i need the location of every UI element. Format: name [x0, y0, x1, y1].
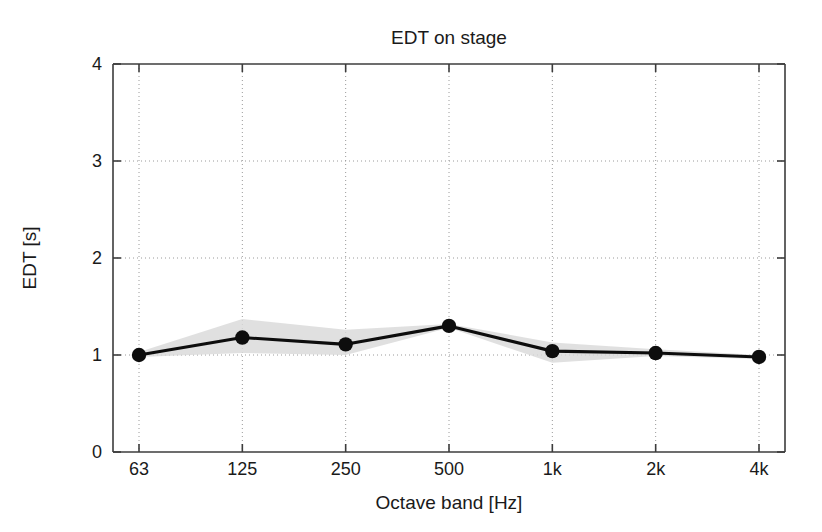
- y-axis-label: EDT [s]: [19, 227, 40, 290]
- data-point-marker: [442, 319, 456, 333]
- y-tick-label: 1: [92, 345, 102, 365]
- data-point-marker: [132, 348, 146, 362]
- y-tick-label: 2: [92, 248, 102, 268]
- x-tick-label: 63: [129, 459, 149, 479]
- x-tick-label: 2k: [646, 459, 666, 479]
- data-point-marker: [545, 344, 559, 358]
- data-point-marker: [648, 346, 662, 360]
- x-tick-label: 125: [227, 459, 257, 479]
- data-point-marker: [752, 350, 766, 364]
- data-point-marker: [338, 337, 352, 351]
- y-tick-label: 0: [92, 442, 102, 462]
- x-tick-label: 4k: [749, 459, 769, 479]
- data-point-marker: [235, 330, 249, 344]
- x-tick-label: 250: [331, 459, 361, 479]
- x-tick-label: 500: [434, 459, 464, 479]
- chart-title: EDT on stage: [391, 27, 507, 48]
- x-axis-label: Octave band [Hz]: [376, 492, 523, 513]
- y-tick-label: 3: [92, 151, 102, 171]
- x-tick-label: 1k: [543, 459, 563, 479]
- edt-on-stage-line-chart: EDT on stage 631252505001k2k4k 01234 Oct…: [0, 0, 822, 532]
- chart-figure: EDT on stage 631252505001k2k4k 01234 Oct…: [0, 0, 822, 532]
- y-tick-label: 4: [92, 54, 102, 74]
